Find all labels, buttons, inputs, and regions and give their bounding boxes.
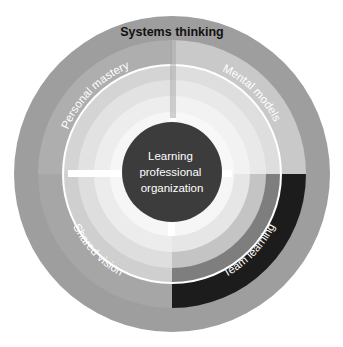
center-label-line-2: professional [139, 166, 201, 178]
center-label-line-3: organization [141, 182, 204, 194]
learning-organization-diagram: Learning professional organization Syste… [0, 0, 343, 347]
svg-text:Learning professional: Learning professional organization [139, 150, 204, 194]
systems-thinking-label: Systems thinking [120, 25, 224, 39]
divider-top-outer [170, 40, 176, 118]
center-label-line-1: Learning [148, 150, 193, 162]
